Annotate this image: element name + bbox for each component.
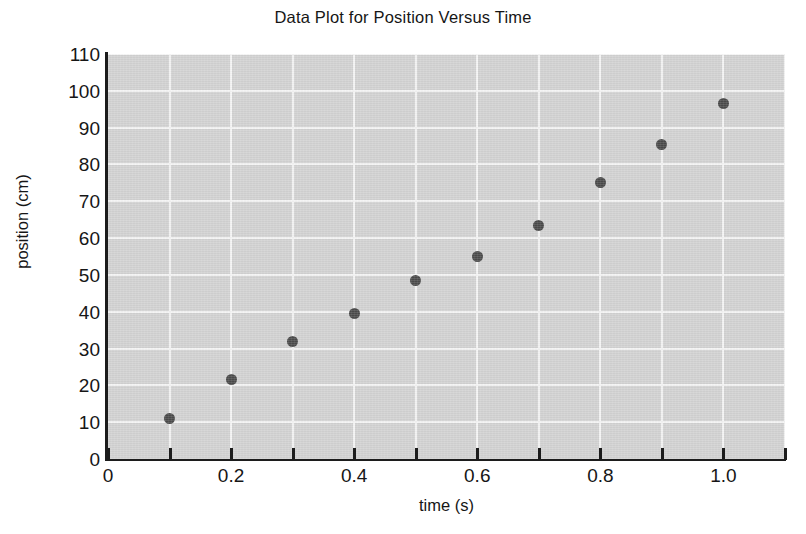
x-axis-tick-label: 0.8 (565, 466, 635, 485)
x-axis-tick (661, 448, 664, 460)
data-point (287, 336, 298, 347)
gridline-horizontal (108, 274, 785, 276)
y-axis-tick-label: 30 (14, 340, 100, 359)
x-axis-tick-label: 1.0 (688, 466, 758, 485)
x-axis-tick-label: 0.4 (319, 466, 389, 485)
gridline-vertical (415, 54, 417, 459)
data-point (533, 220, 544, 231)
gridline-vertical (661, 54, 663, 459)
y-axis-label: position (cm) (13, 112, 32, 332)
y-axis-tick-label: 110 (14, 45, 100, 64)
gridline-vertical (784, 54, 785, 459)
gridline-horizontal (108, 311, 785, 313)
x-axis-tick (784, 448, 787, 460)
gridline-vertical (599, 54, 601, 459)
x-axis-tick (538, 448, 541, 460)
data-point (164, 413, 175, 424)
gridline-vertical (169, 54, 171, 459)
gridline-horizontal (108, 348, 785, 350)
gridline-horizontal (108, 200, 785, 202)
gridline-horizontal (108, 127, 785, 129)
x-axis-tick (476, 448, 479, 460)
x-axis-tick (415, 448, 418, 460)
x-axis-label: time (s) (108, 496, 785, 515)
plot-area (108, 54, 785, 459)
x-axis-tick-label: 0.6 (442, 466, 512, 485)
x-axis-tick (353, 448, 356, 460)
x-axis-tick (230, 448, 233, 460)
gridline-horizontal (108, 237, 785, 239)
gridline-horizontal (108, 163, 785, 165)
gridline-horizontal (108, 54, 785, 55)
gridline-horizontal (108, 90, 785, 92)
x-axis-tick (107, 448, 110, 460)
data-point (410, 275, 421, 286)
gridline-vertical (538, 54, 540, 459)
y-axis-tick-label: 10 (14, 413, 100, 432)
gridline-vertical (230, 54, 232, 459)
data-point (349, 308, 360, 319)
x-axis-tick-label: 0.2 (196, 466, 266, 485)
x-axis-tick-label: 0 (73, 466, 143, 485)
x-axis-tick (169, 448, 172, 460)
gridline-horizontal (108, 384, 785, 386)
chart-figure: Data Plot for Position Versus Time 01020… (0, 0, 806, 534)
data-point (718, 98, 729, 109)
paper-texture (108, 54, 785, 459)
data-point (656, 139, 667, 150)
x-axis-tick (292, 448, 295, 460)
y-axis-tick-label: 100 (14, 82, 100, 101)
gridline-vertical (722, 54, 724, 459)
data-point (595, 177, 606, 188)
chart-title: Data Plot for Position Versus Time (0, 8, 806, 27)
data-point (226, 374, 237, 385)
data-point (472, 251, 483, 262)
x-axis-tick (722, 448, 725, 460)
gridline-vertical (353, 54, 355, 459)
y-axis-tick-label: 20 (14, 376, 100, 395)
gridline-vertical (292, 54, 294, 459)
x-axis-tick (599, 448, 602, 460)
gridline-horizontal (108, 421, 785, 423)
